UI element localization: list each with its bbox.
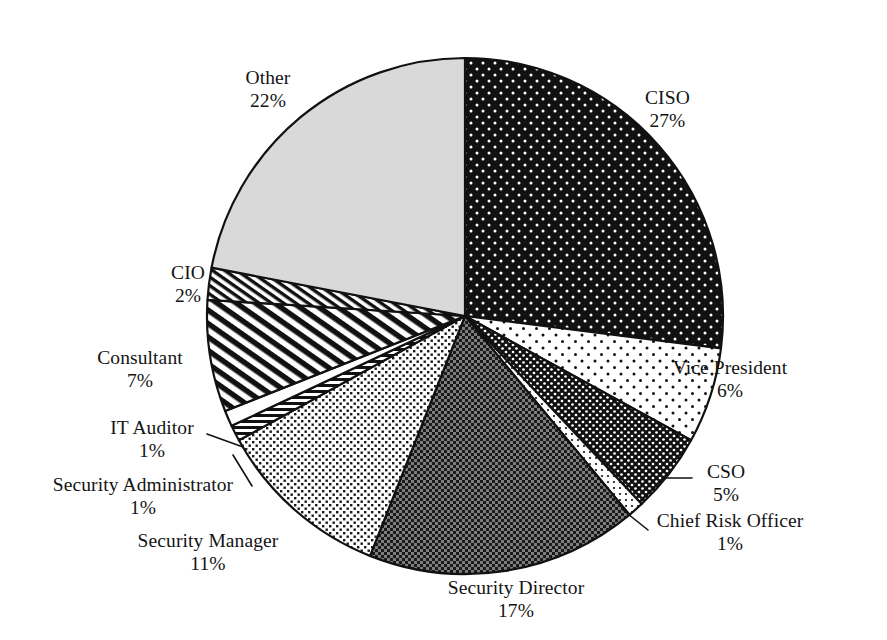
pie-label-percent: 1% (53, 497, 233, 520)
pie-label-percent: 22% (246, 90, 291, 113)
pie-label-it-auditor: IT Auditor1% (110, 417, 194, 463)
leader-line-chief-risk-officer (623, 510, 648, 530)
pie-label-security-manager: Security Manager11% (138, 530, 279, 576)
pie-label-security-director: Security Director17% (448, 577, 585, 623)
pie-slices-group (207, 58, 723, 574)
pie-label-consultant: Consultant7% (97, 347, 183, 393)
pie-label-percent: 11% (138, 553, 279, 576)
pie-label-name: Security Administrator (53, 474, 233, 497)
pie-label-percent: 7% (97, 370, 183, 393)
pie-label-name: IT Auditor (110, 417, 194, 440)
pie-label-security-administrator: Security Administrator1% (53, 474, 233, 520)
pie-label-other: Other22% (246, 67, 291, 113)
pie-label-name: Chief Risk Officer (657, 510, 804, 533)
pie-label-cso: CSO5% (707, 461, 745, 507)
pie-label-percent: 17% (448, 600, 585, 623)
pie-label-name: Security Director (448, 577, 585, 600)
pie-label-name: Other (246, 67, 291, 90)
pie-chart-figure: CISO27%Vice President6%CSO5%Chief Risk O… (0, 0, 887, 640)
leader-line-security-administrator (233, 455, 252, 486)
pie-label-percent: 2% (171, 285, 205, 308)
pie-label-percent: 1% (110, 440, 194, 463)
pie-label-percent: 6% (673, 380, 788, 403)
pie-label-percent: 27% (645, 110, 690, 133)
pie-label-name: CSO (707, 461, 745, 484)
pie-label-name: CISO (645, 87, 690, 110)
pie-label-cio: CIO2% (171, 262, 205, 308)
pie-label-percent: 1% (657, 533, 804, 556)
pie-label-ciso: CISO27% (645, 87, 690, 133)
pie-label-name: Security Manager (138, 530, 279, 553)
pie-label-percent: 5% (707, 484, 745, 507)
pie-label-name: Consultant (97, 347, 183, 370)
pie-label-vice-president: Vice President6% (673, 357, 788, 403)
pie-label-name: Vice President (673, 357, 788, 380)
pie-label-chief-risk-officer: Chief Risk Officer1% (657, 510, 804, 556)
pie-label-name: CIO (171, 262, 205, 285)
